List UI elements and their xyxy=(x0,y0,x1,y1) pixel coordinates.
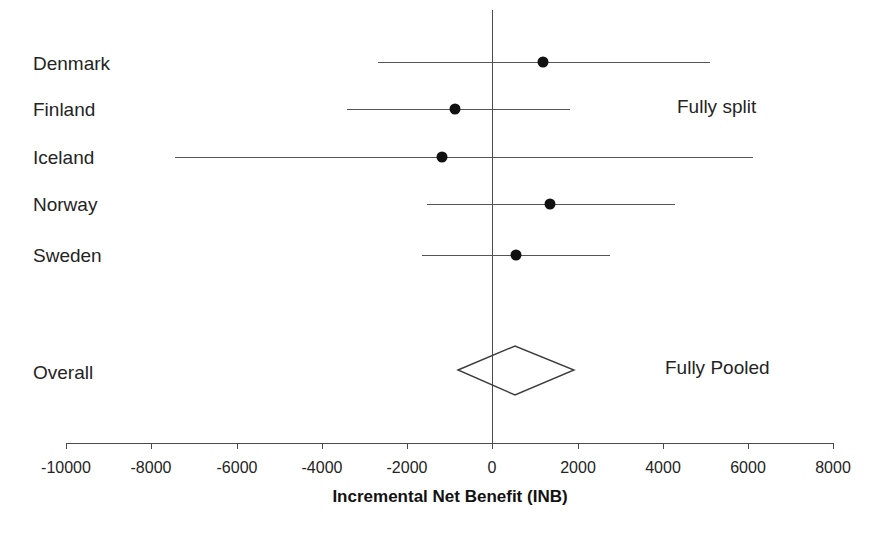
x-axis-tick-label: 2000 xyxy=(560,460,596,476)
x-axis-tick-label: -2000 xyxy=(387,460,428,476)
overall-diamond xyxy=(455,342,577,400)
study-label-iceland: Iceland xyxy=(33,148,94,167)
x-axis-tick-label: -4000 xyxy=(302,460,343,476)
x-axis-tick xyxy=(151,443,152,449)
x-axis-tick xyxy=(663,443,664,449)
x-axis-tick xyxy=(237,443,238,449)
study-label-denmark: Denmark xyxy=(33,54,110,73)
study-label-sweden: Sweden xyxy=(33,246,102,265)
x-axis-tick-label: -10000 xyxy=(41,460,91,476)
study-label-finland: Finland xyxy=(33,100,95,119)
x-axis-tick-label: -6000 xyxy=(217,460,258,476)
annotation-fully-pooled: Fully Pooled xyxy=(665,358,770,377)
x-axis-tick xyxy=(322,443,323,449)
point-marker-iceland xyxy=(437,152,448,163)
annotation-fully-split: Fully split xyxy=(677,97,756,116)
x-axis-tick xyxy=(66,443,67,449)
x-axis-tick xyxy=(407,443,408,449)
point-marker-sweden xyxy=(511,250,522,261)
x-axis-tick-label: 6000 xyxy=(730,460,766,476)
x-axis-line xyxy=(66,443,834,444)
x-axis-tick-label: 8000 xyxy=(815,460,851,476)
x-axis-tick xyxy=(833,443,834,449)
forest-plot: Denmark Finland Iceland Norway Sweden Ov… xyxy=(0,0,879,535)
x-axis-title: Incremental Net Benefit (INB) xyxy=(332,488,567,505)
x-axis-tick-label: 0 xyxy=(488,460,497,476)
study-label-overall: Overall xyxy=(33,363,93,382)
x-axis-tick xyxy=(578,443,579,449)
x-axis-tick-label: 4000 xyxy=(645,460,681,476)
point-marker-denmark xyxy=(538,57,549,68)
point-marker-finland xyxy=(450,104,461,115)
x-axis-tick-label: -8000 xyxy=(131,460,172,476)
x-axis-tick xyxy=(492,443,493,449)
study-label-norway: Norway xyxy=(33,195,97,214)
point-marker-norway xyxy=(545,199,556,210)
ci-line-iceland xyxy=(175,157,753,158)
x-axis-tick xyxy=(748,443,749,449)
